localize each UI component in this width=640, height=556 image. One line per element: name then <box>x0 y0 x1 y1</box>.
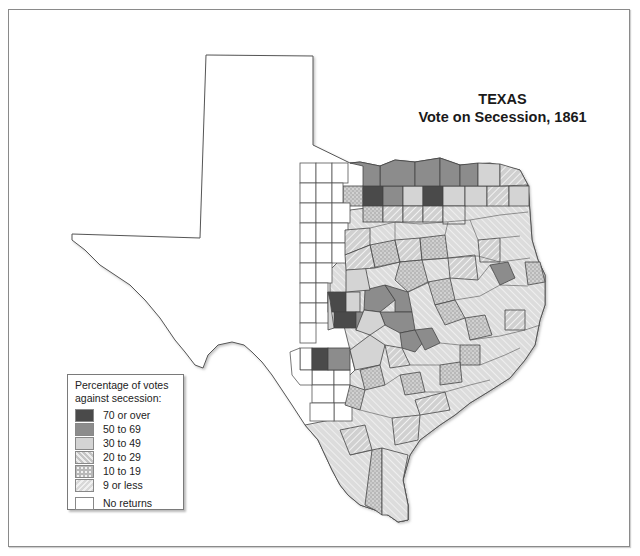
swatch-light <box>75 437 94 450</box>
swatch-light-hatch <box>75 479 94 492</box>
title-line-2: Vote on Secession, 1861 <box>415 108 590 126</box>
legend-label: 30 to 49 <box>103 437 141 450</box>
swatch-medium <box>75 423 94 436</box>
swatch-dots <box>75 465 94 478</box>
legend-item-50-69: 50 to 69 <box>75 422 152 436</box>
title-line-1: TEXAS <box>415 90 590 108</box>
swatch-hatch <box>75 451 94 464</box>
legend-label: No returns <box>103 497 152 510</box>
legend-item-70-plus: 70 or over <box>75 408 152 422</box>
legend-item-9-or-less: 9 or less <box>75 478 152 492</box>
swatch-white <box>75 497 94 510</box>
legend-label: 9 or less <box>103 479 143 492</box>
swatch-dark <box>75 409 94 422</box>
legend-label: 20 to 29 <box>103 451 141 464</box>
legend: Percentage of votes against secession: 7… <box>67 374 184 510</box>
legend-item-30-49: 30 to 49 <box>75 436 152 450</box>
legend-item-no-returns: No returns <box>75 496 152 510</box>
legend-items: 70 or over 50 to 69 30 to 49 20 to 29 10… <box>75 408 152 510</box>
map-title: TEXAS Vote on Secession, 1861 <box>415 90 590 126</box>
legend-label: 10 to 19 <box>103 465 141 478</box>
legend-item-20-29: 20 to 29 <box>75 450 152 464</box>
legend-item-10-19: 10 to 19 <box>75 464 152 478</box>
legend-title: Percentage of votes against secession: <box>75 379 183 405</box>
legend-label: 50 to 69 <box>103 423 141 436</box>
legend-label: 70 or over <box>103 409 150 422</box>
